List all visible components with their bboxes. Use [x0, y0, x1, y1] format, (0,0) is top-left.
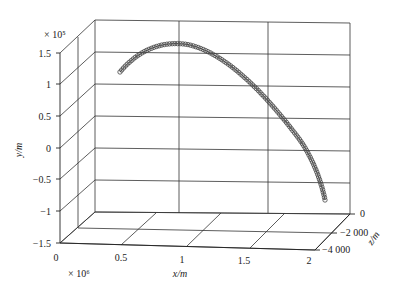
y-tick-labels: 1.5 1 0.5 0 −0.5 −1 −1.5	[33, 48, 51, 249]
x-tick: 2	[307, 255, 312, 266]
side-wall-grid	[60, 20, 95, 243]
x-axis-label: x/m	[172, 268, 187, 279]
trajectory-series	[118, 41, 327, 202]
y-tick: 0	[46, 143, 51, 154]
z-tick: −2 000	[340, 227, 368, 238]
y-tick: 1	[46, 79, 51, 90]
x-tick: 1.5	[238, 255, 251, 266]
z-tick: 0	[360, 208, 365, 219]
y-tick: −1	[40, 206, 51, 217]
y-axis-label: y/m	[13, 143, 24, 158]
back-wall-grid	[95, 20, 350, 214]
x-tick: 0	[54, 252, 59, 263]
x-multiplier: × 10⁶	[68, 268, 90, 279]
axis-frame	[56, 53, 355, 250]
z-tick-labels: 0 −2 000 −4 000	[322, 208, 368, 255]
x-tick: 0.5	[115, 252, 128, 263]
chart-3d-trajectory: 1.5 1 0.5 0 −0.5 −1 −1.5 × 10⁵ y/m 0 0.5…	[0, 0, 398, 291]
y-tick: −0.5	[33, 174, 51, 185]
x-tick: 1	[180, 254, 185, 265]
y-tick: −1.5	[33, 238, 51, 249]
plot-canvas: 1.5 1 0.5 0 −0.5 −1 −1.5 × 10⁵ y/m 0 0.5…	[0, 0, 398, 291]
x-tick-labels: 0 0.5 1 1.5 2	[54, 252, 312, 266]
y-tick: 1.5	[39, 48, 52, 59]
y-tick: 0.5	[39, 111, 52, 122]
z-tick: −4 000	[322, 244, 350, 255]
y-multiplier: × 10⁵	[44, 29, 66, 40]
